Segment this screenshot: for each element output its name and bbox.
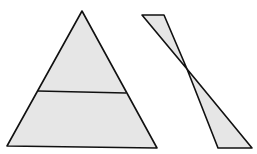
bowtie-upper-triangle [142, 15, 187, 69]
geometry-diagram [0, 0, 257, 154]
large-triangle [7, 11, 157, 148]
bowtie-lower-triangle [187, 69, 252, 148]
